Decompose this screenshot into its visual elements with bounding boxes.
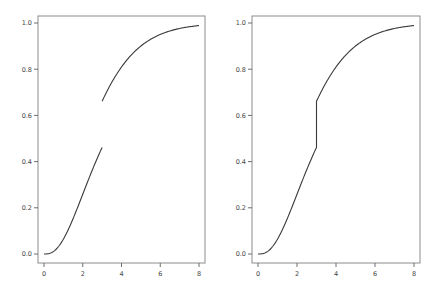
cdf-line-segment-upper (102, 26, 199, 102)
y-tick-label: 0.0 (22, 250, 32, 258)
y-tick-label: 0.4 (22, 158, 32, 166)
y-tick-label: 1.0 (236, 19, 246, 27)
x-tick-label: 4 (334, 270, 338, 278)
x-tick-label: 6 (373, 270, 377, 278)
x-tick-label: 0 (42, 270, 46, 278)
x-tick-label: 8 (197, 270, 201, 278)
x-tick-label: 4 (119, 270, 123, 278)
plot-frame (38, 16, 205, 263)
cdf-line (258, 26, 414, 254)
y-tick-label: 0.2 (236, 204, 246, 212)
right-panel: 0.00.20.40.60.81.002468 (236, 16, 420, 278)
x-tick-label: 8 (412, 270, 416, 278)
y-tick-label: 0.2 (22, 204, 32, 212)
y-tick-label: 0.4 (236, 158, 246, 166)
chart-figure: 0.00.20.40.60.81.002468 0.00.20.40.60.81… (0, 0, 441, 295)
y-tick-label: 0.0 (236, 250, 246, 258)
y-tick-label: 1.0 (22, 19, 32, 27)
y-tick-label: 0.8 (236, 66, 246, 74)
y-tick-label: 0.6 (236, 112, 246, 120)
x-tick-label: 6 (158, 270, 162, 278)
left-panel: 0.00.20.40.60.81.002468 (22, 16, 205, 278)
plot-frame (252, 16, 420, 263)
y-tick-label: 0.8 (22, 66, 32, 74)
x-tick-label: 2 (81, 270, 85, 278)
x-tick-label: 2 (295, 270, 299, 278)
y-tick-label: 0.6 (22, 112, 32, 120)
x-tick-label: 0 (256, 270, 260, 278)
cdf-line-segment-lower (44, 147, 102, 254)
